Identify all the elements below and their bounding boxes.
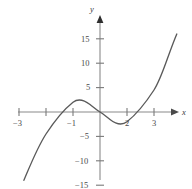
y-axis-label: y (90, 4, 94, 14)
chart-canvas (0, 0, 192, 189)
xtick-label-2: 2 (125, 119, 129, 128)
ytick-label-10: 10 (81, 59, 90, 68)
x-axis-arrow-icon (171, 109, 179, 116)
ytick-label-neg15: −15 (75, 181, 88, 189)
ytick-label-neg5: −5 (80, 132, 89, 141)
x-axis-label: x (182, 107, 186, 117)
ytick-label-15: 15 (81, 35, 90, 44)
y-axis-arrow-icon (97, 15, 104, 23)
cubic-function-plot: y x −3 −1 2 3 15 10 5 −5 −10 −15 (0, 0, 192, 189)
ytick-label-neg10: −10 (75, 157, 88, 166)
xtick-label-neg1: −1 (67, 119, 76, 128)
xtick-label-neg3: −3 (13, 119, 22, 128)
ytick-label-5: 5 (86, 83, 90, 92)
xtick-label-3: 3 (152, 119, 156, 128)
